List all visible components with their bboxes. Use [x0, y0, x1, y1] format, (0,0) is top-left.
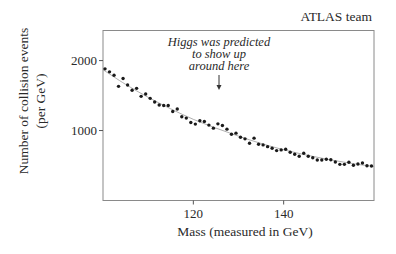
chart: ATLAS team 10002000 120140 Number of col… — [0, 0, 396, 254]
data-point — [207, 123, 210, 126]
data-point — [167, 104, 170, 107]
data-point — [189, 121, 192, 124]
data-point — [162, 104, 165, 107]
data-point — [307, 155, 310, 158]
data-point — [153, 100, 156, 103]
data-point — [130, 89, 133, 92]
data-point — [252, 136, 255, 139]
data-point — [194, 122, 197, 125]
data-point — [361, 161, 364, 164]
data-point — [370, 164, 373, 167]
data-point — [180, 115, 183, 118]
y-tick-label: 1000 — [71, 123, 97, 138]
fit-curve — [103, 70, 374, 167]
data-point — [320, 158, 323, 161]
data-point — [198, 119, 201, 122]
data-point — [275, 149, 278, 152]
data-point — [212, 126, 215, 129]
data-point — [334, 160, 337, 163]
x-tick-label: 120 — [184, 206, 204, 221]
data-point — [112, 74, 115, 77]
y-axis-sublabel: (per GeV) — [33, 73, 48, 128]
data-point — [338, 163, 341, 166]
data-point — [302, 152, 305, 155]
data-point — [279, 148, 282, 151]
data-point — [148, 97, 151, 100]
data-point — [343, 163, 346, 166]
data-point — [135, 87, 138, 90]
data-point — [103, 67, 106, 70]
data-point — [352, 164, 355, 167]
y-tick-label: 2000 — [71, 53, 97, 68]
data-point — [311, 156, 314, 159]
data-point — [158, 103, 161, 106]
data-point — [266, 145, 269, 148]
x-axis-label: Mass (measured in GeV) — [177, 224, 312, 239]
data-point — [230, 132, 233, 135]
data-point — [261, 143, 264, 146]
data-point — [234, 131, 237, 134]
data-point — [325, 158, 328, 161]
y-axis-label-group: Number of collision events (per GeV) — [16, 28, 48, 175]
data-point — [248, 142, 251, 145]
data-point — [117, 85, 120, 88]
x-axis: 120140 — [184, 201, 294, 222]
data-point — [185, 116, 188, 119]
data-points — [103, 67, 373, 168]
data-point — [121, 77, 124, 80]
data-point — [108, 70, 111, 73]
data-point — [126, 83, 129, 86]
annotation: Higgs was predicted to show up around he… — [167, 35, 271, 90]
data-point — [298, 155, 301, 158]
data-point — [365, 164, 368, 167]
data-point — [225, 127, 228, 130]
data-point — [270, 147, 273, 150]
data-point — [144, 92, 147, 95]
data-point — [243, 137, 246, 140]
annotation-arrow-head — [217, 85, 222, 90]
data-point — [203, 120, 206, 123]
data-point — [176, 107, 179, 110]
data-point — [221, 124, 224, 127]
data-point — [139, 95, 142, 98]
data-point — [216, 122, 219, 125]
data-point — [288, 151, 291, 154]
data-point — [257, 142, 260, 145]
data-point — [356, 162, 359, 165]
data-point — [239, 135, 242, 138]
data-point — [329, 158, 332, 161]
data-point — [284, 148, 287, 151]
chart-title: ATLAS team — [300, 9, 372, 24]
data-point — [347, 161, 350, 164]
data-point — [293, 153, 296, 156]
data-point — [171, 110, 174, 113]
y-axis-label: Number of collision events — [16, 28, 31, 175]
y-axis: 10002000 — [71, 53, 103, 138]
annotation-line-3: around here — [189, 59, 250, 73]
data-point — [316, 158, 319, 161]
x-tick-label: 140 — [274, 206, 294, 221]
